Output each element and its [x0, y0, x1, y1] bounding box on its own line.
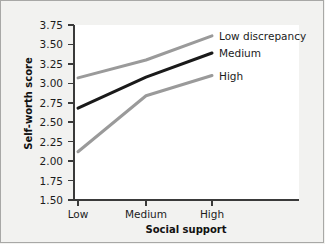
- series-line: [78, 36, 212, 78]
- series-label-medium: Medium: [219, 47, 261, 59]
- series-line: [78, 76, 212, 152]
- series-label-high: High: [219, 70, 243, 82]
- series-label-low-discrepancy: Low discrepancy: [219, 30, 306, 42]
- chart-figure: 3.753.503.253.002.752.502.252.001.751.50…: [0, 0, 325, 244]
